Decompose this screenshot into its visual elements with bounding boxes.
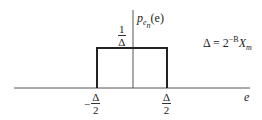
- height-label: 1 Δ: [118, 24, 126, 48]
- pdf-plot: [0, 0, 262, 120]
- x-axis-label: e: [244, 91, 249, 103]
- y-axis-label: pen(e): [137, 12, 164, 30]
- left-tick-label: − Δ 2: [84, 92, 100, 116]
- right-tick-label: Δ 2: [162, 92, 171, 116]
- equation-label: Δ = 2−BXm: [203, 36, 252, 52]
- uniform-pdf-rectangle: [97, 48, 167, 88]
